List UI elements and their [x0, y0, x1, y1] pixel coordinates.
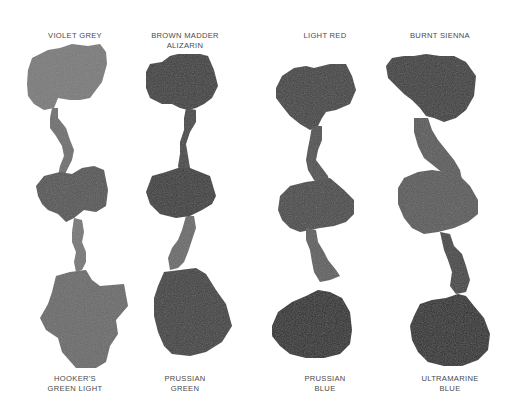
- swatch-mid-blend: [398, 170, 478, 234]
- swatch-bottom-prussian-green: [154, 268, 232, 356]
- swatch-top-light-red: [276, 64, 356, 130]
- swatch-column-2: [146, 54, 232, 356]
- label-top-brown-madder-alizarin: BROWN MADDER ALIZARIN: [130, 31, 240, 50]
- swatch-bottom-ultramarine-blue: [410, 294, 490, 366]
- swatch-illustration: [0, 0, 510, 412]
- swatch-top-burnt-sienna: [386, 54, 476, 122]
- swatch-top-violet-grey: [27, 44, 107, 110]
- swatch-stem-upper: [50, 108, 74, 176]
- swatch-stem-upper: [306, 126, 330, 188]
- swatch-mid-blend: [146, 168, 216, 218]
- label-bottom-hookers-green-light: HOOKER'S GREEN LIGHT: [20, 374, 130, 393]
- swatch-mid-blend: [36, 166, 108, 222]
- swatch-bottom-hookers-green-light: [40, 270, 128, 368]
- swatch-stem-upper: [178, 108, 196, 176]
- swatch-stem-lower: [440, 232, 470, 294]
- swatch-column-4: [386, 54, 490, 366]
- paint-swatch-chart: VIOLET GREY BROWN MADDER ALIZARIN LIGHT …: [0, 0, 510, 412]
- swatch-stem-lower: [72, 218, 86, 272]
- swatch-column-3: [272, 64, 356, 358]
- label-bottom-prussian-blue: PRUSSIAN BLUE: [270, 374, 380, 393]
- swatch-bottom-prussian-blue: [272, 290, 352, 358]
- swatch-stem-lower: [306, 228, 340, 282]
- swatch-column-1: [27, 44, 128, 368]
- label-top-violet-grey: VIOLET GREY: [20, 31, 130, 41]
- swatch-mid-blend: [278, 178, 354, 232]
- swatch-top-brown-madder-alizarin: [146, 54, 218, 110]
- label-top-burnt-sienna: BURNT SIENNA: [385, 31, 495, 41]
- swatch-stem-lower: [168, 216, 196, 270]
- label-top-light-red: LIGHT RED: [270, 31, 380, 41]
- label-bottom-ultramarine-blue: ULTRAMARINE BLUE: [395, 374, 505, 393]
- label-bottom-prussian-green: PRUSSIAN GREEN: [130, 374, 240, 393]
